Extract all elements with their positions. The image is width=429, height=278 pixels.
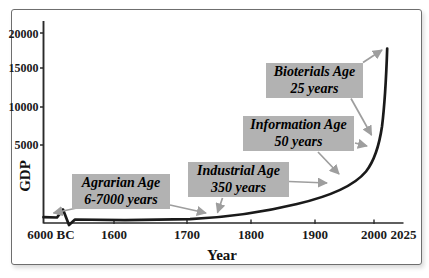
y-axis-title: GDP (17, 160, 33, 192)
annotation-industrial-age: Industrial Age 350 years (188, 162, 289, 197)
y-tick-label: 5000 (15, 138, 39, 152)
y-tick-label: 20000 (9, 27, 39, 41)
annotation-bioterials-age: Bioterials Age 25 years (266, 63, 363, 98)
annotation-title: Information Age (243, 117, 354, 134)
industrial-down-arrow (218, 198, 223, 213)
bioterials-up-arrow (363, 50, 382, 63)
agrarian-right-arrow (170, 205, 206, 213)
annotation-agrarian-age: Agrarian Age 6-7000 years (72, 174, 170, 209)
bioterials-down-arrow (351, 99, 372, 136)
y-tick-label: 15000 (9, 61, 39, 75)
annotation-duration: 50 years (243, 134, 354, 151)
annotation-information-age: Information Age 50 years (243, 116, 354, 151)
annotation-title: Agrarian Age (72, 175, 170, 192)
annotation-duration: 25 years (266, 81, 363, 98)
x-tick-label: 2025 (391, 227, 418, 242)
gdp-growth-ages-figure: 20000 15000 10000 5000 6000 BC 1600 1700… (0, 0, 429, 278)
gdp-growth-chart: 20000 15000 10000 5000 6000 BC 1600 1700… (0, 0, 429, 278)
x-tick-label: 1900 (302, 227, 328, 242)
annotation-title: Industrial Age (188, 163, 289, 180)
x-tick-label: 6000 BC (27, 227, 74, 242)
y-tick-label: 10000 (9, 100, 39, 114)
information-down-arrow (318, 152, 339, 174)
x-tick-label: 1600 (101, 227, 127, 242)
annotation-duration: 350 years (188, 180, 289, 197)
annotation-duration: 6-7000 years (72, 192, 170, 209)
x-tick-label: 2000 (361, 227, 387, 242)
information-right-arrow (355, 143, 367, 146)
annotation-title: Bioterials Age (266, 64, 363, 81)
x-axis-title: Year (207, 247, 237, 263)
industrial-right-arrow (289, 182, 327, 184)
x-tick-label: 1700 (174, 227, 200, 242)
x-tick-label: 1800 (238, 227, 264, 242)
